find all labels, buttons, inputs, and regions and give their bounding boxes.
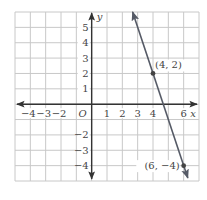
x-tick-label: −4 xyxy=(21,108,36,119)
x-tick-label: −3 xyxy=(36,108,51,119)
y-tick-label: 3 xyxy=(82,53,88,64)
x-tick-label: 6 xyxy=(180,108,186,119)
line-series xyxy=(133,12,188,178)
grid-lines xyxy=(15,12,199,181)
line-series-path xyxy=(133,12,188,178)
y-tick-label: 4 xyxy=(82,37,88,48)
data-point xyxy=(151,71,156,76)
x-axis-label: x xyxy=(190,108,196,119)
y-axis-label: y xyxy=(96,11,103,22)
x-tick-label: 2 xyxy=(119,108,125,119)
origin-label: O xyxy=(79,108,87,119)
y-tick-label: 1 xyxy=(82,83,88,94)
x-tick-label: 3 xyxy=(134,108,140,119)
y-tick-label: 2 xyxy=(82,68,88,79)
x-tick-label: 1 xyxy=(104,108,110,119)
x-tick-label: −2 xyxy=(52,108,67,119)
y-tick-label: −3 xyxy=(74,145,89,156)
y-tick-label: −2 xyxy=(74,129,89,140)
data-point xyxy=(181,163,186,168)
tick-labels: −4−3−21234654321−2−3−4Oxy xyxy=(21,11,196,172)
coordinate-plane: −4−3−21234654321−2−3−4Oxy (4, 2)(6, −4) xyxy=(0,0,207,200)
y-tick-label: −4 xyxy=(74,160,89,171)
point-label: (4, 2) xyxy=(155,59,182,70)
x-tick-label: 4 xyxy=(150,108,156,119)
point-label: (6, −4) xyxy=(144,160,179,171)
y-tick-label: 5 xyxy=(82,22,88,33)
